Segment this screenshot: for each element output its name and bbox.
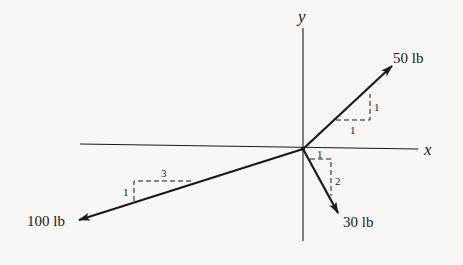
y-axis-label: y xyxy=(296,7,306,26)
force-diagram: x y 50 lb 1 1 30 lb 1 2 100 lb 3 1 xyxy=(0,0,463,265)
origin-point xyxy=(301,147,305,151)
slope-triangle-50lb: 1 1 xyxy=(336,94,380,136)
slope-50lb-run-label: 1 xyxy=(350,124,356,136)
slope-30lb-horizontal-label: 1 xyxy=(317,148,323,160)
force-100lb: 100 lb 3 1 xyxy=(27,149,303,229)
force-100lb-arrow xyxy=(79,149,303,220)
force-30lb: 30 lb 1 2 xyxy=(303,148,373,230)
x-axis-label: x xyxy=(423,140,432,159)
force-50lb-label: 50 lb xyxy=(393,50,423,66)
slope-100lb-vertical-label: 1 xyxy=(123,186,129,198)
slope-100lb-horizontal-label: 3 xyxy=(161,167,167,179)
slope-30lb-vertical-label: 2 xyxy=(335,175,341,187)
force-100lb-label: 100 lb xyxy=(27,213,65,229)
x-axis xyxy=(80,144,418,149)
axes: x y xyxy=(80,7,432,241)
force-30lb-label: 30 lb xyxy=(343,214,373,230)
slope-50lb-rise-label: 1 xyxy=(374,101,380,113)
force-50lb: 50 lb 1 1 xyxy=(303,50,423,149)
